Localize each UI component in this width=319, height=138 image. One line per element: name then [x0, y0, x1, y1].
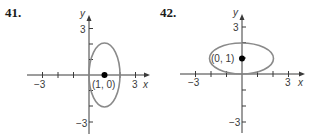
y-axis-arrow-icon	[240, 14, 245, 20]
x-axis-arrow-icon	[299, 72, 305, 77]
x-tick-label-neg: −3	[188, 77, 200, 88]
graphs-canvas: y 3 −3 −3 3 x (1, 0)	[0, 0, 319, 138]
y-tick-label-neg: −3	[76, 118, 88, 129]
x-axis-arrow-icon	[144, 73, 150, 78]
point-label: (0, 1)	[211, 53, 234, 64]
x-tick-label-pos: 3	[132, 79, 138, 90]
graph-42: y 3 −3 −3 3 x (0, 1)	[180, 7, 305, 133]
y-axis-label: y	[232, 7, 239, 18]
y-axis-label: y	[79, 8, 86, 19]
center-point	[102, 72, 108, 78]
center-point	[239, 56, 245, 62]
y-axis-arrow-icon	[87, 15, 92, 21]
x-axis-label: x	[142, 79, 149, 90]
point-label: (1, 0)	[92, 79, 115, 90]
x-tick-label-neg: −3	[34, 79, 46, 90]
x-tick-label-pos: 3	[285, 77, 291, 88]
x-axis-label: x	[297, 77, 304, 88]
graph-41: y 3 −3 −3 3 x (1, 0)	[27, 8, 150, 134]
y-tick-label-neg: −3	[229, 117, 241, 128]
y-tick-label-pos: 3	[80, 24, 86, 35]
y-tick-label-pos: 3	[233, 22, 239, 33]
